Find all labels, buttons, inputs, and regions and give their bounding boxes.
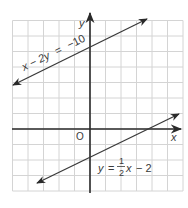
label-2-num: 1: [119, 156, 124, 166]
label-1-eq: =: [53, 43, 64, 57]
label-2-den: 2: [119, 168, 124, 178]
label-1-lhs: x − 2y: [19, 48, 53, 73]
y-axis-label: y: [78, 17, 86, 29]
label-1-rhs: −10: [65, 32, 87, 51]
label-2-rest: − 2: [136, 162, 152, 174]
label-2-lhs: y: [97, 162, 105, 174]
origin-label: O: [76, 131, 84, 142]
coordinate-graph: y x O x − 2y = −10 y = 1 2 x − 2: [0, 0, 188, 208]
x-axis-label: x: [170, 131, 177, 143]
label-2-var: x: [125, 162, 132, 174]
label-2-eq: =: [108, 162, 114, 174]
